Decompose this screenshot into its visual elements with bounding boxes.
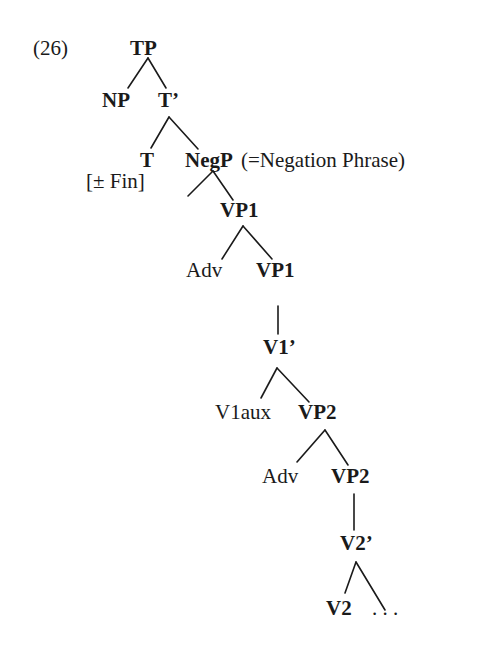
t-feature-fin: [± Fin] — [86, 171, 145, 192]
edge-vp2-adv — [297, 430, 325, 462]
node-ellipsis: . . . — [372, 598, 398, 619]
node-tp: TP — [130, 38, 157, 59]
node-vp2-lower: VP2 — [331, 466, 370, 487]
syntax-tree-diagram: (26) TP NP T’ T NegP (=Negation Phrase) … — [0, 0, 485, 652]
node-adv-2: Adv — [262, 466, 298, 487]
tree-edges — [0, 0, 485, 652]
edge-vp1-vp1 — [243, 226, 272, 259]
edge-tp-tbar — [148, 58, 166, 88]
node-np: NP — [102, 90, 130, 111]
edge-negp-vp1 — [213, 171, 233, 200]
node-v1aux: V1aux — [215, 402, 271, 423]
node-negp: NegP — [185, 150, 233, 171]
edge-tp-np — [128, 58, 148, 88]
node-t-bar: T’ — [158, 90, 179, 111]
edge-v1bar-v1aux — [261, 368, 277, 398]
edge-vp1-adv — [222, 226, 243, 259]
edge-negp-empty — [188, 171, 213, 196]
edge-tbar-t — [151, 117, 169, 148]
node-v1-bar: V1’ — [263, 337, 296, 358]
edge-tbar-negp — [169, 117, 198, 149]
node-v2: V2 — [326, 598, 352, 619]
node-t: T — [140, 150, 154, 171]
node-vp2-top: VP2 — [298, 402, 337, 423]
node-vp1-lower: VP1 — [256, 260, 295, 281]
example-number: (26) — [33, 38, 68, 59]
node-v2-bar: V2’ — [340, 533, 373, 554]
node-adv-1: Adv — [186, 260, 222, 281]
edge-v2bar-v2 — [345, 562, 356, 593]
edge-vp2-vp2 — [325, 430, 348, 465]
node-vp1-top: VP1 — [220, 200, 259, 221]
edge-v1bar-vp2 — [277, 368, 309, 402]
negp-gloss: (=Negation Phrase) — [241, 150, 405, 171]
